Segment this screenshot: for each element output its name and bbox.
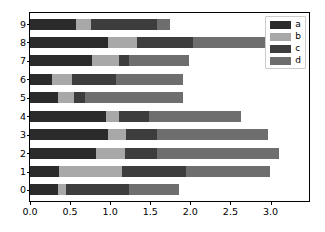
y-tick-mark bbox=[27, 153, 31, 154]
bar-segment-c bbox=[119, 55, 129, 66]
y-tick-label: 8 bbox=[2, 37, 26, 48]
legend-label-c: c bbox=[295, 44, 300, 53]
bar-segment-b bbox=[106, 111, 119, 122]
x-tick-label: 2.5 bbox=[223, 206, 238, 217]
legend-label-b: b bbox=[295, 32, 301, 41]
bar-segment-a bbox=[30, 55, 92, 66]
y-tick-mark bbox=[27, 172, 31, 173]
bar-segment-c bbox=[74, 92, 85, 103]
bar-segment-b bbox=[58, 184, 66, 195]
bar-segment-b bbox=[52, 74, 71, 85]
y-tick-mark bbox=[27, 42, 31, 43]
x-tick-mark bbox=[150, 201, 151, 205]
x-tick-mark bbox=[271, 201, 272, 205]
bar-segment-b bbox=[58, 92, 74, 103]
bar-row bbox=[30, 111, 241, 122]
bar-segment-a bbox=[30, 129, 108, 140]
x-tick-label: 0.5 bbox=[63, 206, 78, 217]
y-tick-label: 7 bbox=[2, 55, 26, 66]
bar-segment-d bbox=[157, 129, 268, 140]
bar-segment-d bbox=[129, 184, 179, 195]
bar-segment-d bbox=[186, 166, 271, 177]
bar-row bbox=[30, 166, 270, 177]
bar-row bbox=[30, 74, 183, 85]
bar-segment-c bbox=[125, 148, 157, 159]
bar-segment-a bbox=[30, 184, 58, 195]
x-tick-mark bbox=[110, 201, 111, 205]
bar-segment-c bbox=[126, 129, 157, 140]
x-tick-label: 3.0 bbox=[263, 206, 278, 217]
x-tick-mark bbox=[230, 201, 231, 205]
y-tick-mark bbox=[27, 190, 31, 191]
x-tick-label: 0.0 bbox=[22, 206, 37, 217]
y-tick-label: 3 bbox=[2, 129, 26, 140]
bar-segment-d bbox=[129, 55, 189, 66]
y-tick-mark bbox=[27, 135, 31, 136]
y-tick-mark bbox=[27, 98, 31, 99]
legend-entry: d bbox=[270, 56, 301, 65]
bar-row bbox=[30, 19, 170, 30]
x-tick-label: 2.0 bbox=[183, 206, 198, 217]
y-tick-mark bbox=[27, 79, 31, 80]
legend-label-a: a bbox=[295, 20, 301, 29]
legend-entry: b bbox=[270, 32, 301, 41]
legend-swatch-a bbox=[270, 21, 291, 29]
bar-segment-b bbox=[96, 148, 125, 159]
bar-segment-d bbox=[116, 74, 183, 85]
bar-row bbox=[30, 129, 268, 140]
bar-segment-c bbox=[66, 184, 129, 195]
legend-entry: c bbox=[270, 44, 301, 53]
y-tick-label: 5 bbox=[2, 92, 26, 103]
legend-entry: a bbox=[270, 20, 301, 29]
bar-segment-c bbox=[119, 111, 149, 122]
bar-row bbox=[30, 184, 179, 195]
y-tick-mark bbox=[27, 24, 31, 25]
bar-segment-d bbox=[149, 111, 241, 122]
y-tick-label: 0 bbox=[2, 184, 26, 195]
x-tick-mark bbox=[30, 201, 31, 205]
bar-segment-c bbox=[122, 166, 185, 177]
y-tick-mark bbox=[27, 116, 31, 117]
bar-segment-a bbox=[30, 111, 106, 122]
chart-figure: 01234567890.00.51.01.52.02.53.0 abcd bbox=[0, 0, 325, 232]
bar-segment-b bbox=[108, 37, 138, 48]
bar-row bbox=[30, 148, 279, 159]
y-tick-label: 2 bbox=[2, 148, 26, 159]
bar-segment-d bbox=[193, 37, 267, 48]
bar-segment-b bbox=[59, 166, 122, 177]
bar-row bbox=[30, 37, 266, 48]
bar-segment-c bbox=[72, 74, 116, 85]
bar-segment-b bbox=[76, 19, 91, 30]
bar-segment-c bbox=[137, 37, 192, 48]
y-tick-label: 1 bbox=[2, 166, 26, 177]
bar-segment-a bbox=[30, 74, 52, 85]
bar-segment-a bbox=[30, 148, 96, 159]
bar-segment-a bbox=[30, 37, 108, 48]
bar-segment-d bbox=[157, 148, 280, 159]
bar-row bbox=[30, 92, 183, 103]
y-tick-label: 9 bbox=[2, 19, 26, 30]
plot-axes: 01234567890.00.51.01.52.02.53.0 abcd bbox=[29, 12, 310, 202]
y-tick-label: 6 bbox=[2, 74, 26, 85]
x-tick-mark bbox=[70, 201, 71, 205]
bar-segment-d bbox=[157, 19, 170, 30]
bar-segment-b bbox=[108, 129, 126, 140]
y-tick-label: 4 bbox=[2, 111, 26, 122]
chart-legend: abcd bbox=[265, 16, 306, 69]
legend-swatch-d bbox=[270, 57, 291, 65]
x-tick-mark bbox=[190, 201, 191, 205]
legend-label-d: d bbox=[295, 56, 301, 65]
bar-row bbox=[30, 55, 189, 66]
y-tick-mark bbox=[27, 61, 31, 62]
bar-segment-a bbox=[30, 92, 58, 103]
x-tick-label: 1.5 bbox=[143, 206, 158, 217]
legend-swatch-b bbox=[270, 33, 291, 41]
x-tick-label: 1.0 bbox=[103, 206, 118, 217]
bar-segment-b bbox=[92, 55, 119, 66]
bar-segment-a bbox=[30, 19, 76, 30]
bar-segment-d bbox=[85, 92, 183, 103]
bar-segment-a bbox=[30, 166, 59, 177]
bar-segment-c bbox=[91, 19, 158, 30]
legend-swatch-c bbox=[270, 45, 291, 53]
